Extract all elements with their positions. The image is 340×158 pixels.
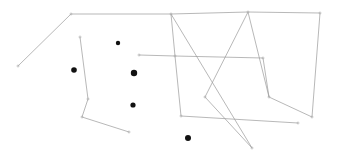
line-diagram	[0, 0, 340, 158]
point-dot-3	[131, 70, 137, 76]
figure-background	[0, 0, 340, 158]
point-dot-1	[116, 41, 120, 45]
point-dot-5	[185, 135, 191, 141]
figure-canvas	[0, 0, 340, 158]
point-dot-2	[71, 67, 77, 73]
point-dot-4	[130, 102, 135, 107]
